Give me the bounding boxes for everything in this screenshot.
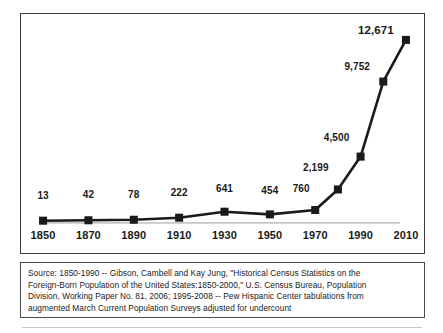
data-point-label: 760 <box>293 182 310 193</box>
data-point-marker <box>130 216 138 224</box>
x-axis-tick-label: 1870 <box>76 229 101 241</box>
source-line-1: Source: 1850-1990 -- Gibson, Cambell and… <box>28 268 417 280</box>
data-point-label: 641 <box>216 182 233 193</box>
data-point-marker <box>266 210 274 218</box>
data-point-marker <box>84 216 92 224</box>
x-axis-tick-label: 1850 <box>31 229 56 241</box>
chart-frame: 1342782226414547602,1994,5009,75212,671 … <box>20 13 425 254</box>
source-line-4: augmented March Current Population Surve… <box>28 303 417 315</box>
x-axis-tick-label: 2010 <box>394 229 419 241</box>
x-axis-tick-label: 1930 <box>212 229 237 241</box>
data-point-label: 42 <box>83 189 94 200</box>
source-line-3: Division, Working Paper No. 81, 2006; 19… <box>28 291 417 303</box>
bottom-divider-rule <box>22 327 422 328</box>
x-axis-tick-label: 1970 <box>303 229 328 241</box>
source-line-2: Foreign-Born Population of the United St… <box>28 280 417 292</box>
data-point-marker <box>220 208 228 216</box>
x-axis-tick-label: 1950 <box>257 229 282 241</box>
data-point-marker <box>175 214 183 222</box>
x-axis-tick-label: 1990 <box>348 229 373 241</box>
data-point-marker <box>357 153 365 161</box>
data-point-marker <box>402 36 410 44</box>
data-point-marker <box>311 206 319 214</box>
x-axis-tick-label: 1910 <box>167 229 192 241</box>
line-chart-svg <box>21 14 424 253</box>
data-point-label: 4,500 <box>324 131 350 142</box>
data-point-label: 454 <box>261 185 278 196</box>
data-point-label: 13 <box>37 189 48 200</box>
data-point-label: 222 <box>171 186 188 197</box>
data-point-label: 78 <box>128 188 139 199</box>
data-point-label: 2,199 <box>303 162 329 173</box>
data-point-label: 9,752 <box>344 60 370 71</box>
data-point-marker <box>334 185 342 193</box>
data-point-label: 12,671 <box>358 24 394 36</box>
chart-plot-area <box>21 14 424 253</box>
figure-root: 1342782226414547602,1994,5009,75212,671 … <box>0 0 443 333</box>
source-note-box: Source: 1850-1990 -- Gibson, Cambell and… <box>20 262 425 318</box>
data-point-marker <box>379 78 387 86</box>
x-axis-tick-label: 1890 <box>121 229 146 241</box>
data-point-marker <box>39 217 47 225</box>
x-axis-tick-labels: 185018701890191019301950197019902010 <box>21 229 424 251</box>
